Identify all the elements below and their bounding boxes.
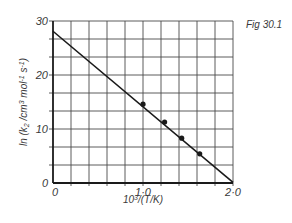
data-point [179,136,184,141]
figure-label: Fig 30.1 [246,19,282,30]
data-point [162,119,167,124]
x-tick-label: 0 [52,186,59,198]
y-tick-label: 0 [42,177,49,189]
data-point [197,151,202,156]
x-axis-label: 103/(T/K) [123,194,163,206]
y-axis-label: ln (k2 /cm3 mol-1 s-1) [18,58,31,146]
y-tick-label: 20 [35,69,49,81]
y-tick-labels: 0102030 [35,15,49,189]
data-point [140,102,145,107]
y-tick-label: 10 [36,123,49,135]
x-tick-label: 2·0 [224,186,242,198]
y-tick-label: 30 [36,15,49,27]
arrhenius-chart: 0102030 01·02·0 ln (k2 /cm3 mol-1 s-1) 1… [0,0,292,223]
